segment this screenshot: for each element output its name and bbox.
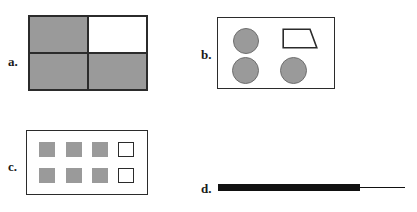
panel-a-cell-top-right bbox=[88, 16, 147, 53]
panel-label-a: a. bbox=[8, 55, 18, 68]
panel-a-cell-bottom-left bbox=[29, 53, 88, 90]
panel-c-cell-r1c1 bbox=[39, 142, 55, 157]
panel-c-cell-r1c3 bbox=[92, 142, 108, 157]
panel-c-cell-r1c2 bbox=[66, 142, 82, 157]
panel-c-cell-r2c3 bbox=[92, 168, 108, 183]
panel-c-cell-r2c1 bbox=[39, 168, 55, 183]
panel-a-container bbox=[28, 15, 148, 91]
panel-a-cell-bottom-right bbox=[88, 53, 147, 90]
figure-canvas: a. b. c. d. bbox=[0, 0, 417, 212]
panel-d-thin-line bbox=[360, 187, 405, 188]
panel-label-b: b. bbox=[201, 48, 211, 61]
panel-label-d: d. bbox=[201, 182, 211, 195]
panel-label-c: c. bbox=[8, 160, 17, 173]
panel-b-circle-top-left bbox=[233, 28, 259, 54]
panel-c-container bbox=[26, 130, 148, 195]
panel-c-cell-r1c4 bbox=[118, 142, 134, 157]
panel-b-trapezoid-top-right bbox=[282, 28, 318, 49]
panel-c-cell-r2c2 bbox=[66, 168, 82, 183]
panel-c-cell-r2c4 bbox=[118, 168, 134, 183]
panel-a-cell-top-left bbox=[29, 16, 88, 53]
panel-d-thick-bar bbox=[218, 184, 360, 191]
panel-b-container bbox=[217, 17, 335, 89]
panel-b-circle-bottom-left bbox=[232, 57, 259, 84]
panel-b-circle-bottom-right bbox=[280, 57, 307, 84]
